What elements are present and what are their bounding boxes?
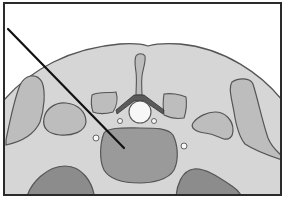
- left-foramen: [118, 119, 123, 124]
- left-vessel: [93, 135, 99, 141]
- left-paraspinal-muscle: [44, 103, 86, 135]
- spinal-canal: [129, 101, 151, 123]
- cross-section-diagram: [0, 0, 287, 207]
- left-transverse-process: [91, 92, 117, 114]
- right-vessel: [181, 143, 187, 149]
- right-transverse-process: [163, 94, 186, 119]
- right-foramen: [152, 119, 157, 124]
